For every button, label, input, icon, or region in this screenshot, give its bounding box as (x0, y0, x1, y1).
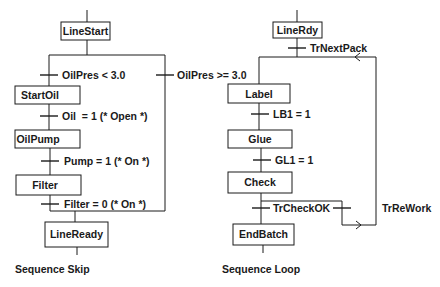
transition-filter-on: Filter = 0 (* On *) (64, 198, 146, 210)
step-start-oil[interactable]: StartOil (15, 86, 80, 104)
svg-text:LineRdy: LineRdy (277, 24, 319, 36)
caption-sequence-skip: Sequence Skip (15, 263, 90, 275)
svg-text:LineStart: LineStart (63, 25, 109, 37)
step-check[interactable]: Check (228, 172, 292, 193)
step-label[interactable]: Label (228, 84, 290, 103)
transition-rework: TrReWork (382, 202, 432, 214)
svg-text:LineReady: LineReady (50, 228, 103, 240)
transition-lb1: LB1 = 1 (273, 108, 311, 120)
svg-text:EndBatch: EndBatch (239, 228, 288, 240)
step-line-start[interactable]: LineStart (61, 22, 110, 40)
sfc-diagram: LineStart OilPres < 3.0 OilPres >= 3.0 S… (0, 0, 440, 287)
transition-oil-pres-low: OilPres < 3.0 (62, 69, 125, 81)
step-filter[interactable]: Filter (16, 175, 81, 195)
transition-oil-open: Oil = 1 (* Open *) (62, 110, 147, 122)
svg-text:Filter: Filter (32, 179, 58, 191)
step-oil-pump[interactable]: OilPump (15, 130, 80, 148)
step-line-ready[interactable]: LineReady (45, 222, 108, 247)
transition-check-ok: TrCheckOK (273, 202, 331, 214)
svg-text:Label: Label (245, 88, 273, 100)
step-end-batch[interactable]: EndBatch (233, 224, 294, 245)
sequence-skip: LineStart OilPres < 3.0 OilPres >= 3.0 S… (15, 10, 247, 275)
step-line-rdy[interactable]: LineRdy (273, 22, 322, 38)
svg-text:Check: Check (244, 176, 276, 188)
step-glue[interactable]: Glue (228, 130, 292, 148)
transition-pump-on: Pump = 1 (* On *) (64, 155, 149, 167)
svg-text:StartOil: StartOil (21, 89, 59, 101)
transition-gl1: GL1 = 1 (275, 154, 313, 166)
sequence-loop: LineRdy TrNextPack Label LB1 = 1 Glue GL… (222, 10, 432, 275)
transition-oil-pres-high: OilPres >= 3.0 (177, 69, 247, 81)
transition-next-pack: TrNextPack (310, 42, 367, 54)
svg-text:Glue: Glue (248, 133, 271, 145)
svg-text:OilPump: OilPump (16, 133, 59, 145)
caption-sequence-loop: Sequence Loop (222, 263, 300, 275)
